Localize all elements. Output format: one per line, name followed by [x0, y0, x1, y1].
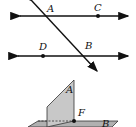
transversal [32, 1, 97, 71]
label-c: C [94, 2, 102, 13]
parallel-lines-figure: A C D B [18, 1, 128, 71]
point-c [96, 14, 100, 18]
point-f [72, 119, 76, 123]
point-d [41, 54, 45, 58]
intersecting-planes-figure: A F B [28, 80, 118, 127]
label-plane-a: A [65, 84, 73, 95]
label-f: F [77, 107, 86, 118]
label-plane-b: B [101, 118, 109, 127]
label-b-top: B [84, 40, 92, 51]
geometry-diagram: A C D B A F B [0, 0, 136, 127]
label-d: D [38, 41, 47, 52]
label-a: A [46, 3, 54, 14]
